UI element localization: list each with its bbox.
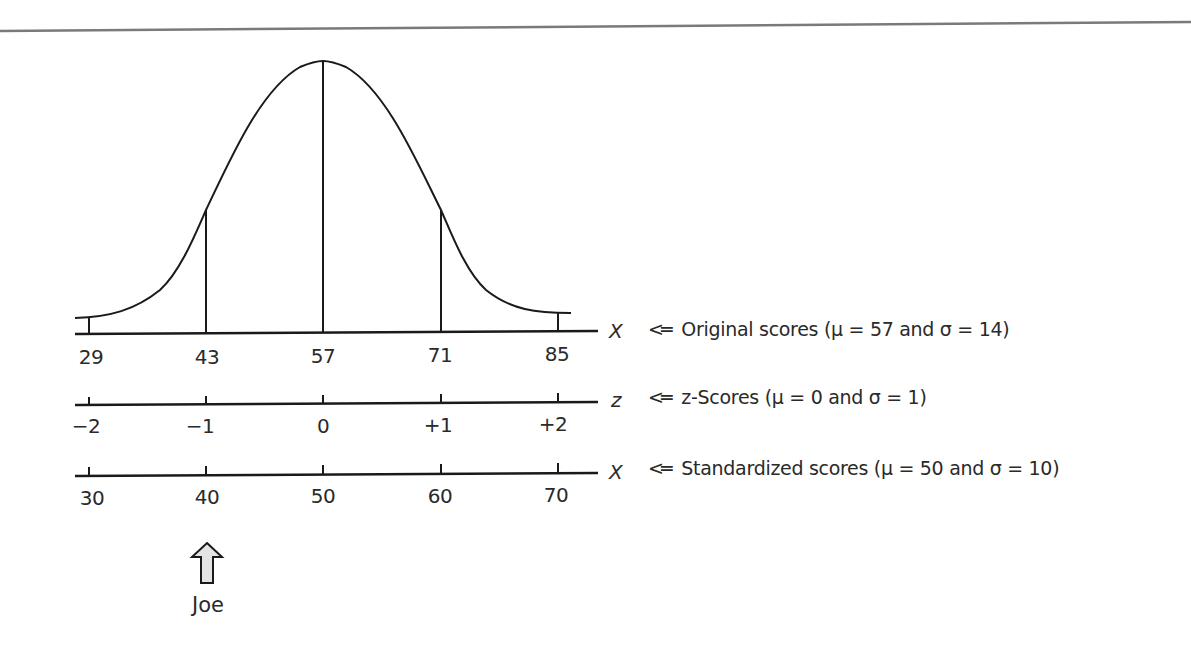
left-double-arrow-icon: <═ xyxy=(648,386,669,408)
original-tick-label: 43 xyxy=(195,345,219,369)
z-axis-line xyxy=(75,402,598,405)
original-axis-symbol: X xyxy=(609,319,623,343)
up-arrow-icon xyxy=(192,543,222,583)
original-tick-label: 29 xyxy=(79,345,103,369)
standardized-axis-description: <═Standardized scores (μ = 50 and σ = 10… xyxy=(648,457,1059,479)
z-axis-symbol: z xyxy=(611,388,622,412)
z-tick-label: +1 xyxy=(424,413,452,437)
standardized-tick-label: 60 xyxy=(428,484,452,508)
standardized-tick-label: 70 xyxy=(544,483,568,507)
top-rule xyxy=(0,22,1191,31)
joe-label: Joe xyxy=(192,593,224,617)
standardized-axis-symbol: X xyxy=(609,460,623,484)
left-double-arrow-icon: <═ xyxy=(648,318,669,340)
original-axis-description: <═Original scores (μ = 57 and σ = 14) xyxy=(648,318,1009,340)
z-tick-label: 0 xyxy=(317,414,329,438)
standardized-tick-label: 30 xyxy=(80,486,104,510)
standardized-tick-label: 40 xyxy=(195,485,219,509)
z-tick-label: +2 xyxy=(539,412,567,436)
standardized-axis-line xyxy=(75,473,598,476)
original-tick-label: 57 xyxy=(311,344,335,368)
z-tick-label: −2 xyxy=(72,414,100,438)
left-double-arrow-icon: <═ xyxy=(648,457,669,479)
z-axis-description: <═z-Scores (μ = 0 and σ = 1) xyxy=(648,386,927,408)
original-axis-line xyxy=(75,331,598,334)
standardized-tick-label: 50 xyxy=(311,484,335,508)
original-tick-label: 85 xyxy=(545,342,569,366)
original-tick-label: 71 xyxy=(428,343,452,367)
normal-distribution-figure xyxy=(0,0,1191,650)
z-tick-label: −1 xyxy=(186,414,214,438)
